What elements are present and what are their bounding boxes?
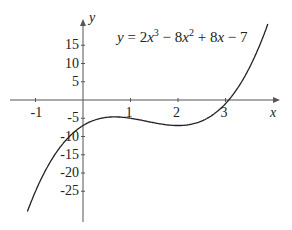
chart: y x y = 2x3 − 8x2 + 8x − 7 -112315105-5-… xyxy=(0,0,292,230)
y-tick-label: -5 xyxy=(67,111,79,125)
y-axis-label: y xyxy=(89,11,95,25)
y-tick-label: -15 xyxy=(60,148,79,162)
x-axis-arrow-icon xyxy=(273,97,280,103)
equation-label: y = 2x3 − 8x2 + 8x − 7 xyxy=(117,28,248,45)
y-tick-label: -20 xyxy=(60,166,79,180)
x-tick-label: 3 xyxy=(221,106,228,120)
y-axis-arrow-icon xyxy=(80,19,86,26)
y-tick-label: 15 xyxy=(65,38,79,52)
y-tick-label: 5 xyxy=(72,75,79,89)
x-tick-label: 2 xyxy=(173,106,180,120)
x-tick-label: -1 xyxy=(31,106,43,120)
y-tick-label: 10 xyxy=(65,57,79,71)
y-tick-label: -25 xyxy=(60,184,79,198)
y-tick-label: -10 xyxy=(60,130,79,144)
x-tick-label: 1 xyxy=(126,106,133,120)
x-axis-label: x xyxy=(270,106,276,120)
